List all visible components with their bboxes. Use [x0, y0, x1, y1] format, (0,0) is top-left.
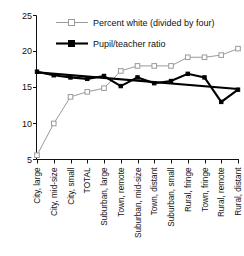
x-tick-label: Suburban, small: [167, 167, 176, 226]
data-point-marker: [118, 69, 123, 74]
line-chart: 25 20 15 10 5 Cit: [0, 0, 244, 256]
chart-container: 25 20 15 10 5 Cit: [0, 0, 244, 256]
y-tick-label: 25: [22, 11, 32, 21]
data-point-marker: [51, 121, 56, 126]
x-tick-label: City, small: [67, 167, 76, 204]
x-axis-tick-labels: City, largeCity, mid-sizeCity, smallTOTA…: [33, 167, 243, 238]
chart-legend: Percent white (divided by four) Pupil/te…: [56, 18, 215, 49]
legend-item-percent-white: Percent white (divided by four): [56, 18, 215, 28]
x-tick-label: Town, fringe: [201, 167, 210, 212]
legend-marker-open-square: [69, 20, 75, 26]
data-point-marker: [35, 70, 38, 73]
data-point-marker: [169, 64, 174, 69]
data-point-marker: [152, 64, 157, 69]
x-tick-label: Town, remote: [117, 167, 126, 217]
series-percent-white: [35, 46, 241, 157]
data-point-marker: [219, 53, 224, 58]
legend-label-percent-white: Percent white (divided by four): [93, 18, 215, 28]
y-tick-label: 20: [22, 46, 32, 56]
data-point-marker: [169, 79, 172, 82]
y-axis-ticks: [33, 16, 37, 160]
data-point-marker: [136, 76, 139, 79]
data-point-marker: [236, 88, 239, 91]
y-axis-tick-labels: 25 20 15 10 5: [22, 11, 32, 165]
x-tick-label: Rural, remote: [217, 167, 226, 217]
data-point-marker: [52, 74, 55, 77]
data-point-marker: [69, 76, 72, 79]
x-tick-label: Suburban, large: [100, 167, 109, 226]
x-tick-label: Rural, distant: [234, 167, 243, 216]
data-point-marker: [102, 86, 107, 91]
x-tick-label: Rural, fringe: [184, 167, 193, 212]
data-point-marker: [86, 77, 89, 80]
x-tick-label: Suburban, mid-size: [134, 167, 143, 238]
y-tick-label: 15: [22, 82, 32, 92]
data-point-marker: [185, 55, 190, 60]
x-tick-label: City, mid-size: [50, 167, 59, 216]
data-point-marker: [35, 153, 40, 158]
x-axis-ticks: [38, 160, 239, 164]
x-tick-label: TOTAL: [83, 167, 92, 193]
data-point-marker: [202, 55, 207, 60]
data-point-marker: [102, 74, 105, 77]
legend-item-pupil-teacher-ratio: Pupil/teacher ratio: [56, 39, 166, 49]
y-tick-label: 5: [27, 155, 32, 165]
legend-marker-filled-square: [69, 41, 75, 47]
data-point-marker: [153, 81, 156, 84]
data-point-marker: [203, 76, 206, 79]
data-point-marker: [236, 46, 241, 51]
legend-label-pupil-teacher-ratio: Pupil/teacher ratio: [93, 39, 166, 49]
data-point-marker: [186, 72, 189, 75]
data-point-marker: [68, 95, 73, 100]
y-tick-label: 10: [22, 119, 32, 129]
data-point-marker: [220, 100, 223, 103]
data-point-marker: [85, 90, 90, 95]
data-point-marker: [119, 84, 122, 87]
x-tick-label: City, large: [33, 167, 42, 204]
data-point-marker: [135, 64, 140, 69]
x-tick-label: Town, distant: [150, 167, 159, 216]
